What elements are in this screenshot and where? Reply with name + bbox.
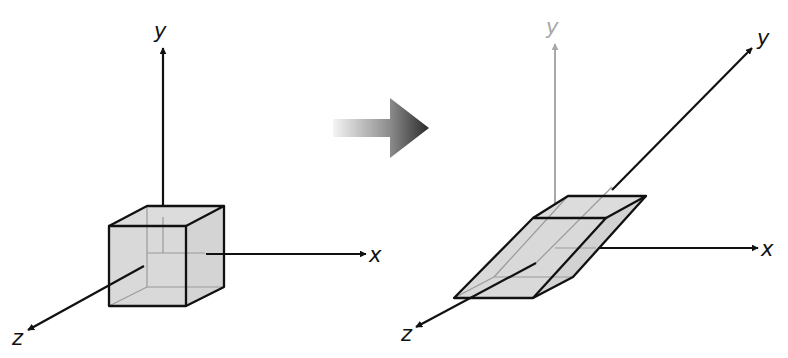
sheared-y-axis-label: y [756,26,770,50]
z-axis-label: z [11,326,24,350]
x-axis-label-right: x [760,237,774,261]
x-axis-label: x [368,243,382,267]
sheared-y-axis [612,48,752,190]
y-axis-label: y [153,19,167,43]
cube-figure: y x z [11,19,382,350]
original-y-axis-label: y [545,15,559,39]
z-axis-label-right: z [400,322,413,346]
sheared-figure: y y x z [400,15,774,346]
shear-diagram: y x z y [0,0,788,358]
right-arrow-icon [333,98,429,158]
